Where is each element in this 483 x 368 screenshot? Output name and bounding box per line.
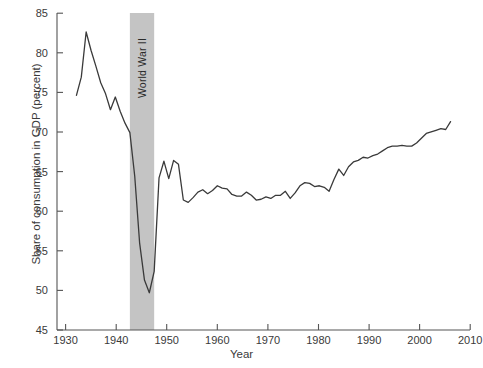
x-tick-marks xyxy=(66,324,471,330)
chart-figure: 45 50 55 60 65 70 75 80 85 1930 1940 195… xyxy=(0,0,483,368)
x-tick-label-1970: 1970 xyxy=(246,334,290,346)
x-tick-label-1950: 1950 xyxy=(145,334,189,346)
x-tick-label-2000: 2000 xyxy=(398,334,442,346)
world-war-2-label: World War II xyxy=(136,28,148,108)
chart-canvas xyxy=(0,0,483,368)
x-tick-label-1990: 1990 xyxy=(347,334,391,346)
y-tick-marks xyxy=(57,13,63,330)
x-tick-label-1940: 1940 xyxy=(94,334,138,346)
x-axis-title: Year xyxy=(0,348,483,360)
y-tick-label-50: 50 xyxy=(18,284,48,296)
x-tick-label-1960: 1960 xyxy=(195,334,239,346)
x-tick-label-1930: 1930 xyxy=(44,334,88,346)
x-tick-label-1980: 1980 xyxy=(297,334,341,346)
y-axis-title: Share of consumption in GDP (percent) xyxy=(30,44,42,284)
x-tick-label-2010: 2010 xyxy=(448,334,483,346)
y-tick-label-85: 85 xyxy=(18,7,48,19)
